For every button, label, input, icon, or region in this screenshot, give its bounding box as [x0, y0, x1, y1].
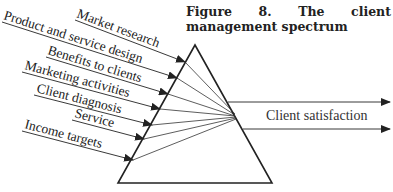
internal-rays — [133, 62, 236, 160]
output-label: Client satisfaction — [266, 108, 367, 123]
prism-triangle — [118, 45, 272, 183]
input-income-targets: Income targets — [22, 116, 133, 160]
spectrum-diagram: Market research Product and service desi… — [0, 0, 393, 192]
